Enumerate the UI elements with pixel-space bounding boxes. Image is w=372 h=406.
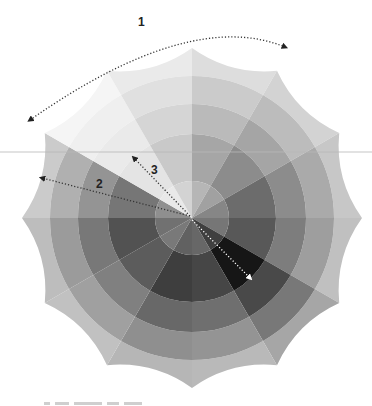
annotation-label-2: 2 bbox=[96, 177, 103, 191]
annotation-label-1: 1 bbox=[138, 15, 145, 29]
cut-off-caption bbox=[44, 399, 154, 406]
annotation-label-3: 3 bbox=[151, 163, 158, 177]
wheel-segments bbox=[12, 38, 372, 398]
color-wheel-diagram: 123 bbox=[0, 0, 372, 406]
